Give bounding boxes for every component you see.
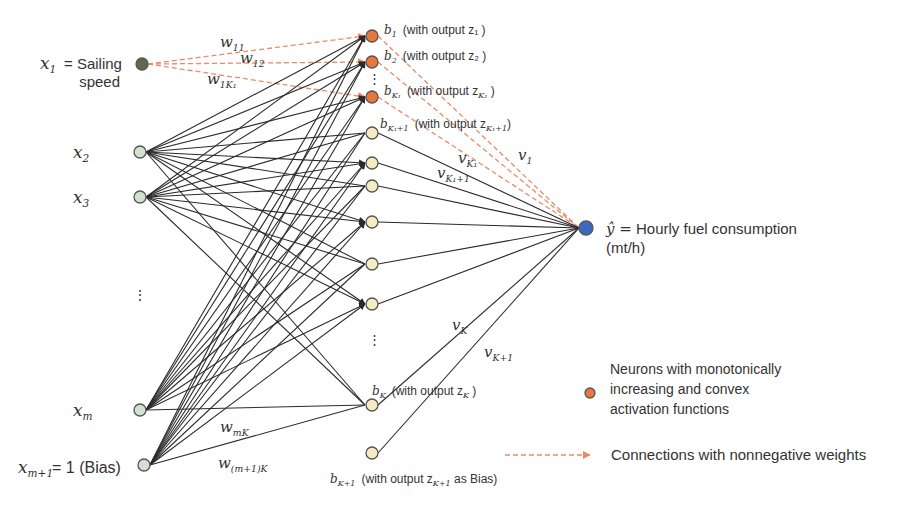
- hidden-node-h6: [366, 180, 378, 192]
- connection: [146, 62, 365, 152]
- connection: [150, 222, 365, 465]
- connection: [150, 36, 365, 465]
- hidden-node-h8: [366, 258, 378, 270]
- hidden-label-b1: b1(with output z₁ ): [384, 23, 486, 39]
- weight-label-w1K₁: w1K₁: [207, 70, 236, 90]
- input-label-x1-desc2: speed: [79, 73, 120, 90]
- connection: [150, 186, 365, 465]
- connection: [150, 133, 365, 465]
- legend-orange-dot-icon: [585, 388, 595, 398]
- hidden-node-h7: [366, 216, 378, 228]
- input-node-xm1: [138, 459, 150, 471]
- legend: Neurons with monotonicallyincreasing and…: [505, 361, 866, 463]
- hidden-node-b2: [366, 56, 378, 68]
- hidden-ellipsis-top: ⋮: [368, 71, 381, 86]
- legend-convex-text-0: Neurons with monotonically: [610, 361, 781, 377]
- output-label: Hourly fuel consumption: [636, 220, 797, 237]
- input-node-xm: [134, 404, 146, 416]
- connection: [146, 62, 365, 197]
- connection: [146, 36, 365, 152]
- hidden-node-b1: [366, 30, 378, 42]
- hidden-label-bK1p1: bK₁+1(with output zK₁+1): [380, 117, 511, 133]
- hidden-node-h9: [366, 298, 378, 310]
- connection: [378, 228, 579, 304]
- connection: [378, 163, 579, 228]
- connection: [146, 97, 365, 197]
- hidden-label-b2: b2(with output z₂ ): [384, 49, 486, 65]
- weight-label-v1: v1: [518, 146, 532, 166]
- connection: [150, 304, 365, 465]
- output-symbol: ŷ =: [605, 220, 632, 238]
- hidden-label-bK1bias: bK+1(with output zK+1 as Bias): [330, 472, 497, 488]
- input-node-x3: [134, 191, 146, 203]
- input-ellipsis: ⋮: [133, 287, 147, 303]
- connection: [150, 62, 365, 465]
- input-label-x3: x3: [73, 187, 90, 209]
- weight-label-vK₁+1: vK₁+1: [437, 164, 470, 184]
- weight-label-vK: vK: [452, 316, 468, 336]
- weight-label-w12: w12: [240, 49, 265, 69]
- input-label-xm1: xm+1: [18, 457, 53, 479]
- connection: [146, 36, 365, 410]
- output-unit: (mt/h): [606, 239, 645, 256]
- hidden-label-bK: bK(with output zK ): [372, 384, 476, 400]
- hidden-node-h5: [366, 157, 378, 169]
- connection: [378, 228, 579, 405]
- input-label-xm1-desc: = 1 (Bias): [52, 459, 121, 476]
- connection: [378, 186, 579, 228]
- legend-nonneg-text: Connections with nonnegative weights: [611, 446, 866, 463]
- weight-label-w(m+1)K: w(m+1)K: [218, 454, 269, 474]
- weight-label-vK+1: vK+1: [484, 343, 513, 363]
- hidden-node-bK1bias: [366, 447, 378, 459]
- hidden-node-bK: [366, 399, 378, 411]
- connection: [146, 186, 365, 410]
- input-label-x1: x1: [40, 53, 56, 75]
- legend-convex-text-1: increasing and convex: [610, 381, 749, 397]
- hidden-node-bK1p1: [366, 127, 378, 139]
- input-hidden-connections: [146, 36, 365, 465]
- input-node-x2: [134, 146, 146, 158]
- connection: [146, 62, 365, 410]
- weight-label-vK₁: vK₁: [458, 149, 477, 169]
- connection: [378, 222, 579, 228]
- input-node-x1: [136, 58, 148, 70]
- hidden-node-bK1: [366, 91, 378, 103]
- connection: [378, 228, 579, 453]
- output-node: [579, 221, 593, 235]
- connection: [378, 133, 579, 228]
- neural-network-diagram: x1 = Sailingspeedx2x3xmxm+1 = 1 (Bias)⋮⋮…: [0, 0, 903, 514]
- connection: [378, 228, 579, 264]
- weight-label-wmK: wmK: [220, 418, 250, 438]
- hidden-ellipsis-bottom: ⋮: [368, 332, 381, 347]
- input-label-xm: xm: [73, 400, 93, 422]
- input-label-x2: x2: [73, 142, 90, 164]
- node-labels: x1 = Sailingspeedx2x3xmxm+1 = 1 (Bias)⋮⋮…: [18, 23, 797, 488]
- legend-convex-text-2: activation functions: [610, 401, 729, 417]
- input-label-x1-desc: = Sailing: [64, 55, 122, 72]
- hidden-label-bK1: bK₁(with output zK₁ ): [384, 84, 495, 100]
